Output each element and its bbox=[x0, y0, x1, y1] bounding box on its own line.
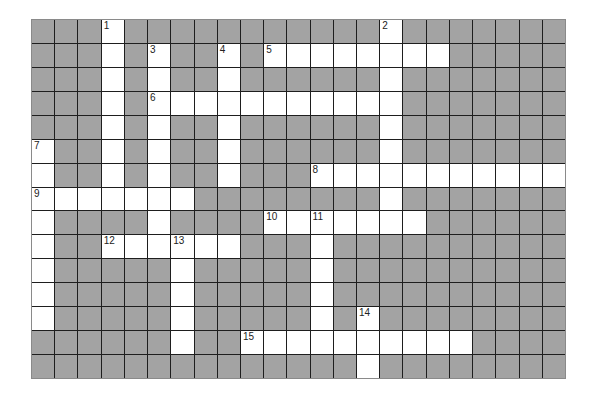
crossword-cell-open[interactable] bbox=[125, 188, 147, 211]
crossword-cell-open[interactable] bbox=[357, 164, 379, 187]
crossword-cell-open[interactable] bbox=[218, 68, 240, 91]
crossword-cell-open[interactable] bbox=[311, 331, 333, 354]
crossword-cell-open[interactable]: 6 bbox=[148, 92, 170, 115]
crossword-cell-open[interactable] bbox=[380, 44, 402, 67]
crossword-cell-open[interactable] bbox=[125, 235, 147, 258]
crossword-cell-open[interactable] bbox=[357, 92, 379, 115]
crossword-cell-open[interactable] bbox=[380, 331, 402, 354]
crossword-cell-open[interactable] bbox=[148, 188, 170, 211]
crossword-cell-open[interactable] bbox=[334, 92, 356, 115]
crossword-cell-open[interactable] bbox=[32, 211, 54, 234]
crossword-cell-open[interactable] bbox=[171, 307, 193, 330]
crossword-cell-open[interactable]: 13 bbox=[171, 235, 193, 258]
crossword-cell-open[interactable]: 2 bbox=[380, 20, 402, 43]
crossword-cell-open[interactable]: 10 bbox=[264, 211, 286, 234]
crossword-cell-open[interactable] bbox=[171, 188, 193, 211]
crossword-cell-open[interactable] bbox=[218, 140, 240, 163]
crossword-cell-open[interactable] bbox=[218, 235, 240, 258]
crossword-cell-open[interactable] bbox=[32, 283, 54, 306]
crossword-cell-open[interactable] bbox=[287, 44, 309, 67]
crossword-cell-open[interactable] bbox=[148, 140, 170, 163]
crossword-cell-open[interactable] bbox=[334, 331, 356, 354]
crossword-cell-open[interactable] bbox=[380, 116, 402, 139]
crossword-cell-open[interactable] bbox=[171, 283, 193, 306]
crossword-cell-open[interactable] bbox=[403, 44, 425, 67]
crossword-cell-open[interactable] bbox=[78, 188, 100, 211]
crossword-cell-open[interactable] bbox=[264, 331, 286, 354]
crossword-cell-open[interactable]: 11 bbox=[311, 211, 333, 234]
crossword-cell-open[interactable] bbox=[32, 259, 54, 282]
crossword-cell-open[interactable]: 8 bbox=[311, 164, 333, 187]
crossword-cell-open[interactable] bbox=[380, 140, 402, 163]
crossword-cell-open[interactable] bbox=[148, 211, 170, 234]
crossword-cell-open[interactable] bbox=[450, 164, 472, 187]
crossword-cell-open[interactable]: 12 bbox=[102, 235, 124, 258]
crossword-cell-open[interactable] bbox=[543, 164, 565, 187]
crossword-cell-open[interactable] bbox=[380, 68, 402, 91]
crossword-cell-open[interactable] bbox=[102, 68, 124, 91]
crossword-cell-open[interactable] bbox=[287, 92, 309, 115]
crossword-cell-open[interactable] bbox=[311, 307, 333, 330]
crossword-cell-open[interactable] bbox=[102, 140, 124, 163]
crossword-cell-open[interactable] bbox=[311, 92, 333, 115]
crossword-cell-open[interactable] bbox=[357, 211, 379, 234]
crossword-cell-open[interactable] bbox=[241, 92, 263, 115]
crossword-cell-open[interactable] bbox=[264, 92, 286, 115]
crossword-cell-open[interactable] bbox=[287, 211, 309, 234]
crossword-cell-open[interactable] bbox=[148, 68, 170, 91]
crossword-cell-open[interactable] bbox=[195, 92, 217, 115]
crossword-cell-open[interactable] bbox=[403, 164, 425, 187]
crossword-cell-open[interactable] bbox=[218, 164, 240, 187]
crossword-cell-open[interactable] bbox=[102, 92, 124, 115]
crossword-cell-open[interactable] bbox=[357, 331, 379, 354]
crossword-cell-open[interactable] bbox=[357, 355, 379, 378]
crossword-cell-open[interactable]: 3 bbox=[148, 44, 170, 67]
crossword-cell-open[interactable] bbox=[148, 164, 170, 187]
crossword-cell-open[interactable] bbox=[311, 283, 333, 306]
crossword-cell-open[interactable] bbox=[102, 116, 124, 139]
crossword-cell-open[interactable] bbox=[380, 211, 402, 234]
crossword-cell-open[interactable]: 9 bbox=[32, 188, 54, 211]
crossword-cell-open[interactable] bbox=[403, 211, 425, 234]
crossword-cell-open[interactable] bbox=[311, 44, 333, 67]
crossword-cell-open[interactable] bbox=[334, 211, 356, 234]
crossword-cell-open[interactable] bbox=[102, 188, 124, 211]
crossword-cell-open[interactable] bbox=[148, 116, 170, 139]
crossword-cell-open[interactable] bbox=[311, 259, 333, 282]
crossword-cell-open[interactable] bbox=[334, 164, 356, 187]
crossword-cell-open[interactable]: 7 bbox=[32, 140, 54, 163]
crossword-cell-open[interactable] bbox=[427, 44, 449, 67]
crossword-cell-open[interactable] bbox=[218, 92, 240, 115]
crossword-cell-open[interactable] bbox=[102, 164, 124, 187]
crossword-cell-open[interactable] bbox=[32, 307, 54, 330]
crossword-cell-open[interactable] bbox=[334, 44, 356, 67]
crossword-cell-open[interactable] bbox=[171, 331, 193, 354]
crossword-cell-open[interactable] bbox=[473, 164, 495, 187]
crossword-cell-open[interactable] bbox=[427, 164, 449, 187]
crossword-cell-open[interactable] bbox=[450, 331, 472, 354]
crossword-cell-open[interactable] bbox=[520, 164, 542, 187]
crossword-cell-open[interactable] bbox=[380, 188, 402, 211]
crossword-cell-open[interactable] bbox=[311, 235, 333, 258]
crossword-cell-open[interactable] bbox=[171, 92, 193, 115]
crossword-cell-open[interactable] bbox=[357, 44, 379, 67]
crossword-cell-open[interactable] bbox=[148, 235, 170, 258]
crossword-cell-open[interactable] bbox=[32, 235, 54, 258]
crossword-cell-open[interactable] bbox=[55, 188, 77, 211]
crossword-cell-open[interactable] bbox=[32, 164, 54, 187]
crossword-cell-open[interactable] bbox=[496, 164, 518, 187]
crossword-cell-open[interactable]: 14 bbox=[357, 307, 379, 330]
crossword-cell-open[interactable] bbox=[427, 331, 449, 354]
crossword-cell-open[interactable] bbox=[195, 235, 217, 258]
crossword-cell-open[interactable] bbox=[380, 164, 402, 187]
crossword-cell-open[interactable]: 4 bbox=[218, 44, 240, 67]
crossword-cell-open[interactable] bbox=[218, 116, 240, 139]
crossword-cell-open[interactable]: 5 bbox=[264, 44, 286, 67]
crossword-cell-open[interactable] bbox=[102, 44, 124, 67]
crossword-cell-open[interactable] bbox=[403, 331, 425, 354]
crossword-cell-open[interactable]: 15 bbox=[241, 331, 263, 354]
crossword-cell-open[interactable] bbox=[380, 92, 402, 115]
crossword-cell-open[interactable]: 1 bbox=[102, 20, 124, 43]
crossword-cell-open[interactable] bbox=[287, 331, 309, 354]
crossword-cell-open[interactable] bbox=[171, 259, 193, 282]
